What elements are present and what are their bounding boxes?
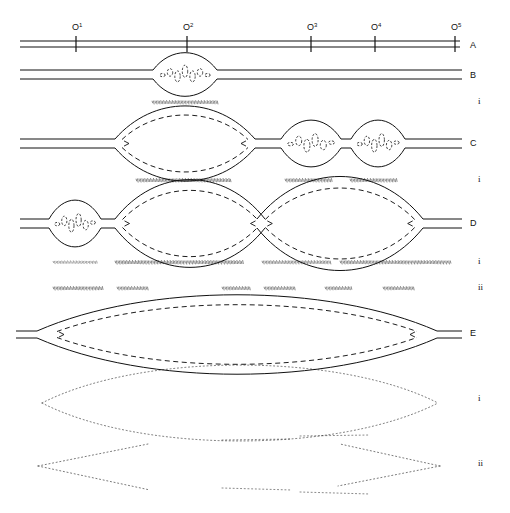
tick-label-base: O	[307, 22, 314, 32]
hatch-band-segment	[383, 286, 414, 290]
row-label-B: B	[470, 70, 476, 80]
node-swelling	[49, 200, 101, 247]
band-label-i: i	[478, 174, 481, 184]
node-outline-top	[37, 295, 437, 331]
tick-label-o4: O4	[371, 22, 382, 33]
dotted-lens-top	[42, 365, 438, 403]
row-B: Bi	[20, 53, 481, 106]
tick-label-o3: O3	[307, 22, 318, 33]
node-outline-bottom	[49, 228, 101, 247]
node-cell	[62, 216, 67, 225]
node-cell	[182, 65, 187, 77]
node-outline-bottom	[115, 148, 255, 181]
node-cell	[90, 221, 95, 224]
hatch-strokes	[383, 286, 414, 290]
node-cell	[190, 71, 195, 82]
node-tip-arrow-right	[251, 221, 256, 226]
dotted-chevron-left-upper	[38, 444, 148, 466]
tick-label-o5: O5	[451, 22, 462, 33]
node-outline-top	[281, 120, 341, 139]
node-cell	[160, 74, 165, 77]
node-outline-top	[115, 180, 265, 219]
hatch-strokes	[222, 286, 250, 290]
hatch-band-segment	[350, 178, 397, 182]
diagram-canvas: O1O2O3O4O5ABiCiDiiiEiii	[0, 0, 510, 513]
band-label-i: i	[478, 96, 481, 106]
hatch-strokes	[340, 260, 451, 264]
band-label-ii: ii	[478, 282, 484, 292]
node-outline-bottom	[281, 148, 341, 167]
dotted-chevron-right-upper	[340, 444, 440, 466]
node-outline-top	[115, 106, 255, 139]
node-outline-top	[153, 53, 217, 70]
node-cell	[296, 136, 302, 145]
hatch-band-segment	[53, 260, 97, 264]
node-cell	[357, 142, 362, 145]
node-swelling	[37, 295, 437, 374]
node-inner-cells	[55, 214, 96, 233]
dotted-mid-segment	[300, 435, 370, 436]
tick-label-o1: O1	[72, 22, 83, 33]
hatch-band-segment	[340, 260, 451, 264]
node-cell	[329, 141, 335, 144]
node-outline-bottom	[153, 79, 217, 96]
node-cell	[205, 74, 210, 77]
node-tip-arrow-right	[408, 221, 413, 226]
node-outline-top	[257, 176, 423, 219]
hatch-strokes	[53, 260, 97, 264]
hatch-strokes	[152, 100, 218, 104]
node-outline-bottom	[37, 338, 437, 374]
node-cell	[379, 134, 384, 147]
row-C: Ci	[20, 106, 481, 184]
node-cell	[394, 141, 399, 144]
dotted-lens-bottom	[42, 403, 438, 441]
tick-label-exponent: 5	[458, 22, 462, 28]
node-cell	[76, 214, 81, 227]
node-cell	[55, 222, 60, 225]
node-swelling	[115, 106, 255, 181]
dotted-curve-label-ii: ii	[478, 458, 484, 468]
node-inner-outline-bottom	[265, 228, 414, 259]
node-inner-cells	[288, 134, 335, 153]
hatch-strokes	[350, 178, 397, 182]
tick-label-exponent: 1	[79, 22, 83, 28]
node-swelling	[115, 180, 265, 268]
node-inner-outline-top	[123, 190, 258, 219]
hatch-strokes	[117, 286, 148, 290]
row-D: Diii	[20, 176, 484, 292]
band-label-i: i	[478, 256, 481, 266]
node-inner-outline-top	[57, 305, 417, 332]
node-cell	[304, 139, 310, 152]
node-cell	[288, 142, 294, 145]
tick-label-exponent: 2	[190, 22, 194, 28]
node-cell	[167, 69, 172, 77]
node-cell	[175, 71, 180, 82]
hatch-band-segment	[325, 286, 352, 290]
dotted-curve-i: i	[42, 365, 481, 441]
band-tier-i: i	[53, 256, 481, 266]
node-swelling	[351, 120, 405, 167]
row-E: E	[16, 295, 476, 374]
node-outline-bottom	[257, 228, 423, 271]
dotted-curve-label-i: i	[478, 393, 481, 403]
node-tip-arrow-left	[125, 221, 130, 226]
tick-label-exponent: 4	[378, 22, 382, 28]
figure-svg: O1O2O3O4O5ABiCiDiiiEiii	[0, 0, 510, 513]
node-cell	[320, 140, 326, 149]
node-cell	[83, 220, 88, 229]
row-label-E: E	[470, 328, 476, 338]
row-label-A: A	[470, 40, 476, 50]
node-swelling	[281, 120, 341, 167]
hatch-band-segment	[53, 286, 103, 290]
hatch-strokes	[53, 286, 103, 290]
row-label-C: C	[470, 138, 477, 148]
node-tip-arrow-right	[410, 332, 415, 337]
node-swelling	[153, 53, 217, 97]
tick-label-base: O	[371, 22, 378, 32]
band-tier-ii: ii	[53, 282, 484, 292]
node-outline-top	[49, 200, 101, 219]
tick-label-base: O	[183, 22, 190, 32]
node-cell	[69, 219, 74, 232]
band-tier-i: i	[152, 96, 481, 106]
node-outline-bottom	[115, 228, 265, 267]
